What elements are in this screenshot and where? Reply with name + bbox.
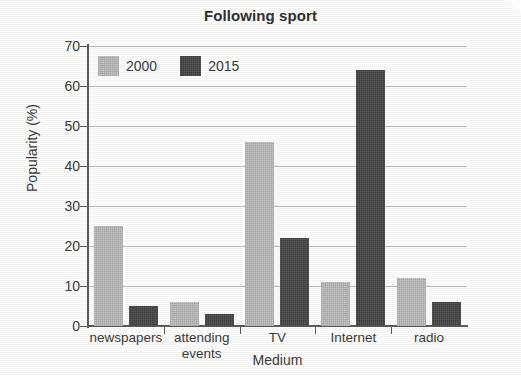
bar-2000-radio	[397, 278, 426, 326]
y-axis-tick-label: 40	[38, 159, 80, 173]
y-axis-tick-label: 10	[38, 279, 80, 293]
bar-2000-newspapers	[94, 226, 123, 326]
bar-2015-Internet	[356, 70, 385, 326]
bar-2015-attending-events	[205, 314, 234, 326]
legend-swatch-2000	[98, 56, 119, 76]
chart-title: Following sport	[0, 7, 521, 24]
y-axis-tick-label: 30	[38, 199, 80, 213]
bar-group	[240, 46, 316, 326]
y-axis-tick-label: 20	[38, 239, 80, 253]
bar-2015-radio	[432, 302, 461, 326]
bar-groups	[88, 46, 467, 326]
legend: 20002015	[98, 56, 239, 76]
x-axis-title: Medium	[88, 352, 467, 368]
legend-item-2015: 2015	[180, 56, 239, 76]
bar-2015-TV	[280, 238, 309, 326]
legend-label: 2000	[126, 58, 157, 74]
legend-item-2000: 2000	[98, 56, 157, 76]
legend-label: 2015	[208, 58, 239, 74]
bar-group	[164, 46, 240, 326]
bar-2000-TV	[245, 142, 274, 326]
bar-group	[391, 46, 467, 326]
y-axis-tick-label: 50	[38, 119, 80, 133]
bar-chart: Following sport Popularity (%) 010203040…	[0, 0, 521, 375]
bar-2015-newspapers	[129, 306, 158, 326]
y-axis-tick-label: 70	[38, 39, 80, 53]
bar-group	[88, 46, 164, 326]
bar-group	[315, 46, 391, 326]
y-axis-tick-label: 60	[38, 79, 80, 93]
legend-swatch-2015	[180, 56, 201, 76]
bar-2000-Internet	[321, 282, 350, 326]
y-axis-tick-label: 0	[38, 319, 80, 333]
bar-2000-attending-events	[170, 302, 199, 326]
